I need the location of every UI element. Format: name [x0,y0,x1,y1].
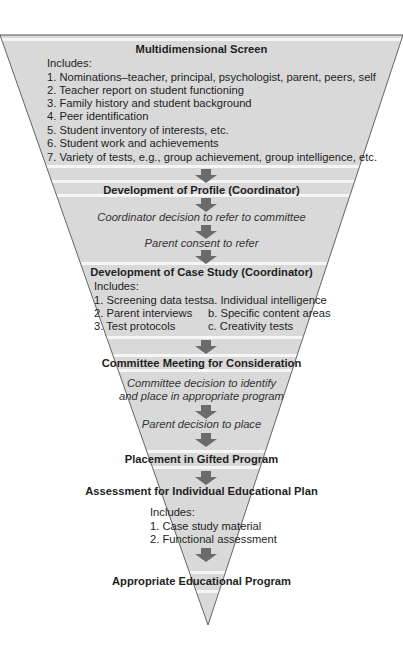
stage-title-appropriate-program: Appropriate Educational Program [0,575,403,588]
screen-item: 7. Variety of tests, e.g., group achieve… [47,151,377,164]
assessment-item: 2. Functional assessment [150,533,277,546]
case-study-item: c. Creativity tests [208,320,293,333]
includes-label: Includes: [47,57,92,70]
down-arrow-icon [195,250,217,264]
stage-title-development-of-profile: Development of Profile (Coordinator) [0,184,403,197]
down-arrow-icon [195,169,217,183]
screen-item: 5. Student inventory of interests, etc. [47,124,229,137]
case-study-item: 2. Parent interviews [94,307,192,320]
stage-title-assessment: Assessment for Individual Educational Pl… [0,485,403,498]
case-study-item: 3. Test protocols [94,320,175,333]
includes-label: Includes: [150,506,195,519]
stage-title-case-study: Development of Case Study (Coordinator) [0,266,403,279]
case-study-item: 1. Screening data tests [94,294,208,307]
down-arrow-icon [195,340,217,354]
screen-item: 2. Teacher report on student functioning [47,84,244,97]
down-arrow-icon [195,471,217,485]
stage-title-placement: Placement in Gifted Program [0,453,403,466]
step-coordinator-decision: Coordinator decision to refer to committ… [0,211,403,224]
case-study-item: b. Specific content areas [208,307,331,320]
step-committee-decision-cont: and place in appropriate program [0,390,403,403]
down-arrow-icon [195,548,217,562]
stage-title-multidimensional-screen: Multidimensional Screen [0,43,403,56]
includes-label: Includes: [94,280,139,293]
step-parent-decision: Parent decision to place [0,418,403,431]
case-study-item: a. Individual intelligence [208,294,327,307]
screen-item: 1. Nominations–teacher, principal, psych… [47,71,376,84]
step-parent-consent: Parent consent to refer [0,237,403,250]
down-arrow-icon [195,198,217,212]
down-arrow-icon [195,405,217,419]
funnel-content: Multidimensional Screen Includes: 1. Nom… [0,0,403,647]
step-committee-decision: Committee decision to identify [0,377,403,390]
stage-title-committee-meeting: Committee Meeting for Consideration [0,357,403,370]
screen-item: 6. Student work and achievements [47,137,219,150]
down-arrow-icon [195,433,217,447]
assessment-item: 1. Case study material [150,520,261,533]
screen-item: 3. Family history and student background [47,97,252,110]
screen-item: 4. Peer identification [47,110,148,123]
